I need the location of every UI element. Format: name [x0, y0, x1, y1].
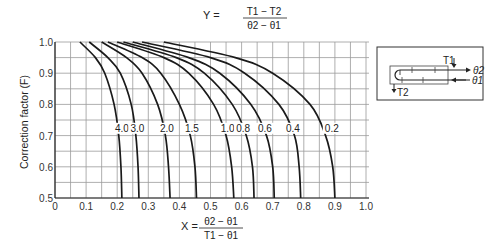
y-tick-label: 1.0 — [39, 37, 53, 48]
x-tick-label: 0.5 — [204, 201, 218, 212]
y-tick-label: 0.6 — [39, 162, 53, 173]
y-tick-label: 0.8 — [39, 99, 53, 110]
curve-label: 1.0 — [221, 123, 235, 134]
y-tick-label: 0.9 — [39, 68, 53, 79]
xlabel-lhs: X = — [181, 220, 198, 232]
y-tick-label: 0.5 — [39, 193, 53, 204]
inset-label-t2: T2 — [397, 87, 409, 98]
x-axis-ticks: 00.10.20.30.40.50.60.70.80.91.0 — [52, 201, 373, 212]
x-tick-label: 0.3 — [141, 201, 155, 212]
x-tick-label: 0.6 — [235, 201, 249, 212]
y-axis-ticks: 0.50.60.70.80.91.0 — [39, 37, 53, 204]
title-numerator: T1 − T2 — [247, 6, 282, 17]
curve-label: 2.0 — [160, 123, 174, 134]
x-tick-label: 0.7 — [266, 201, 280, 212]
x-tick-label: 0.4 — [172, 201, 186, 212]
curve-label: 4.0 — [115, 123, 129, 134]
curve-label: 0.2 — [325, 123, 339, 134]
arrow-out-icon — [466, 68, 471, 73]
inset-frame — [377, 47, 483, 100]
shell-outline — [390, 66, 448, 84]
arrow-in-icon — [451, 78, 456, 83]
plot-grid — [55, 42, 369, 198]
correction-factor-chart: Y = T1 − T2 θ2 − θ1 4.03.02.01.51.00.80.… — [0, 0, 497, 250]
curve-label: 3.0 — [130, 123, 144, 134]
x-tick-label: 0.1 — [79, 201, 93, 212]
x-tick-label: 1.0 — [359, 201, 373, 212]
title-denominator: θ2 − θ1 — [247, 20, 281, 31]
title-lhs: Y = — [203, 9, 220, 21]
heat-exchanger-inset: T1 T2 θ2 θ1 — [377, 47, 484, 100]
x-tick-label: 0.9 — [328, 201, 342, 212]
y-tick-label: 0.7 — [39, 131, 53, 142]
xlabel-numerator: θ2 − θ1 — [204, 216, 238, 227]
inset-label-theta1: θ1 — [472, 75, 483, 86]
x-tick-label: 0.2 — [110, 201, 124, 212]
curve-label: 1.5 — [185, 123, 199, 134]
curve-labels: 4.03.02.01.51.00.80.60.40.2 — [113, 123, 341, 134]
curve-label: 0.6 — [258, 123, 272, 134]
x-axis-label-formula: X = θ2 − θ1 T1 − θ1 — [181, 216, 243, 241]
curve-label: 0.8 — [236, 123, 250, 134]
arrow-down-icon — [392, 89, 397, 93]
inset-label-t1: T1 — [443, 55, 455, 66]
x-tick-label: 0 — [52, 201, 58, 212]
chart-title-formula: Y = T1 − T2 θ2 − θ1 — [203, 6, 287, 31]
xlabel-denominator: T1 − θ1 — [204, 230, 239, 241]
y-axis-label: Correction factor (F) — [18, 75, 30, 169]
x-tick-label: 0.8 — [297, 201, 311, 212]
curve-label: 0.4 — [286, 123, 300, 134]
